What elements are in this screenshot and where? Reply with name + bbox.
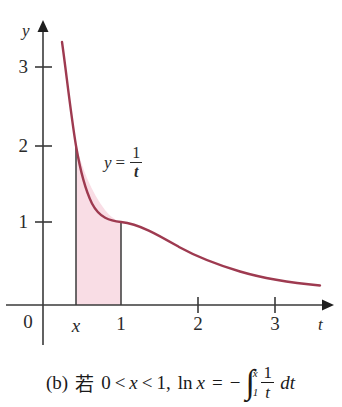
x-axis-arrow-icon: [322, 300, 334, 311]
caption-ln-operator: ln: [178, 372, 193, 394]
caption-less-than-1: <: [115, 372, 126, 394]
curve-equation-equals: =: [116, 153, 126, 173]
caption-equals: =: [212, 372, 223, 394]
y-axis-label: y: [22, 22, 30, 39]
x-axis-label: t: [318, 316, 323, 333]
curve-equation-numerator: 1: [130, 145, 142, 162]
curve-equation-annotation: y = 1 t: [104, 145, 142, 180]
caption-row: (b) 若 0 < x < 1 , ln x = − ∫: [46, 364, 296, 401]
curve-equation-lhs: y: [104, 153, 112, 173]
curve-equation-denominator: t: [132, 163, 140, 180]
x-tick-label-3: 3: [260, 314, 290, 333]
caption-comma: ,: [166, 372, 171, 394]
x-tick-label-1: 1: [106, 314, 136, 333]
y-axis-arrow-icon: [38, 20, 49, 32]
figure-caption: (b) 若 0 < x < 1 , ln x = − ∫: [0, 358, 342, 407]
y-tick-label-2: 2: [2, 136, 28, 155]
caption-integrand-fraction: 1 t: [261, 364, 274, 401]
y-tick-label-3: 3: [2, 57, 28, 76]
integrand-denominator: t: [265, 383, 270, 401]
x-tick-label-2: 2: [183, 314, 213, 333]
integrand-numerator: 1: [263, 364, 272, 382]
caption-condition-left: 0: [101, 372, 111, 394]
caption-condition-right: 1: [157, 372, 167, 394]
caption-variable-x: x: [129, 372, 137, 394]
x-tick-label-x: x: [61, 316, 91, 335]
caption-ln-argument: x: [197, 372, 205, 394]
caption-less-than-2: <: [142, 372, 153, 394]
curve-equation-fraction: 1 t: [130, 145, 142, 180]
y-tick-label-1: 1: [2, 212, 28, 231]
figure-container: 3 2 1 y 0 x 1 2 3 t y = 1 t (b) 若: [0, 0, 342, 407]
chart-svg: [0, 0, 342, 352]
chart-plot-area: 3 2 1 y 0 x 1 2 3 t y = 1 t: [0, 0, 342, 352]
caption-integral-expression: ∫ x 1 1 t dt: [245, 364, 295, 401]
caption-cjk-word: 若: [75, 369, 94, 396]
caption-part-label: (b): [46, 372, 68, 394]
caption-minus-sign: −: [230, 372, 241, 394]
integral-sign-icon: ∫: [245, 369, 255, 396]
x-tick-label-0: 0: [13, 312, 43, 331]
integral-differential: dt: [280, 372, 295, 394]
